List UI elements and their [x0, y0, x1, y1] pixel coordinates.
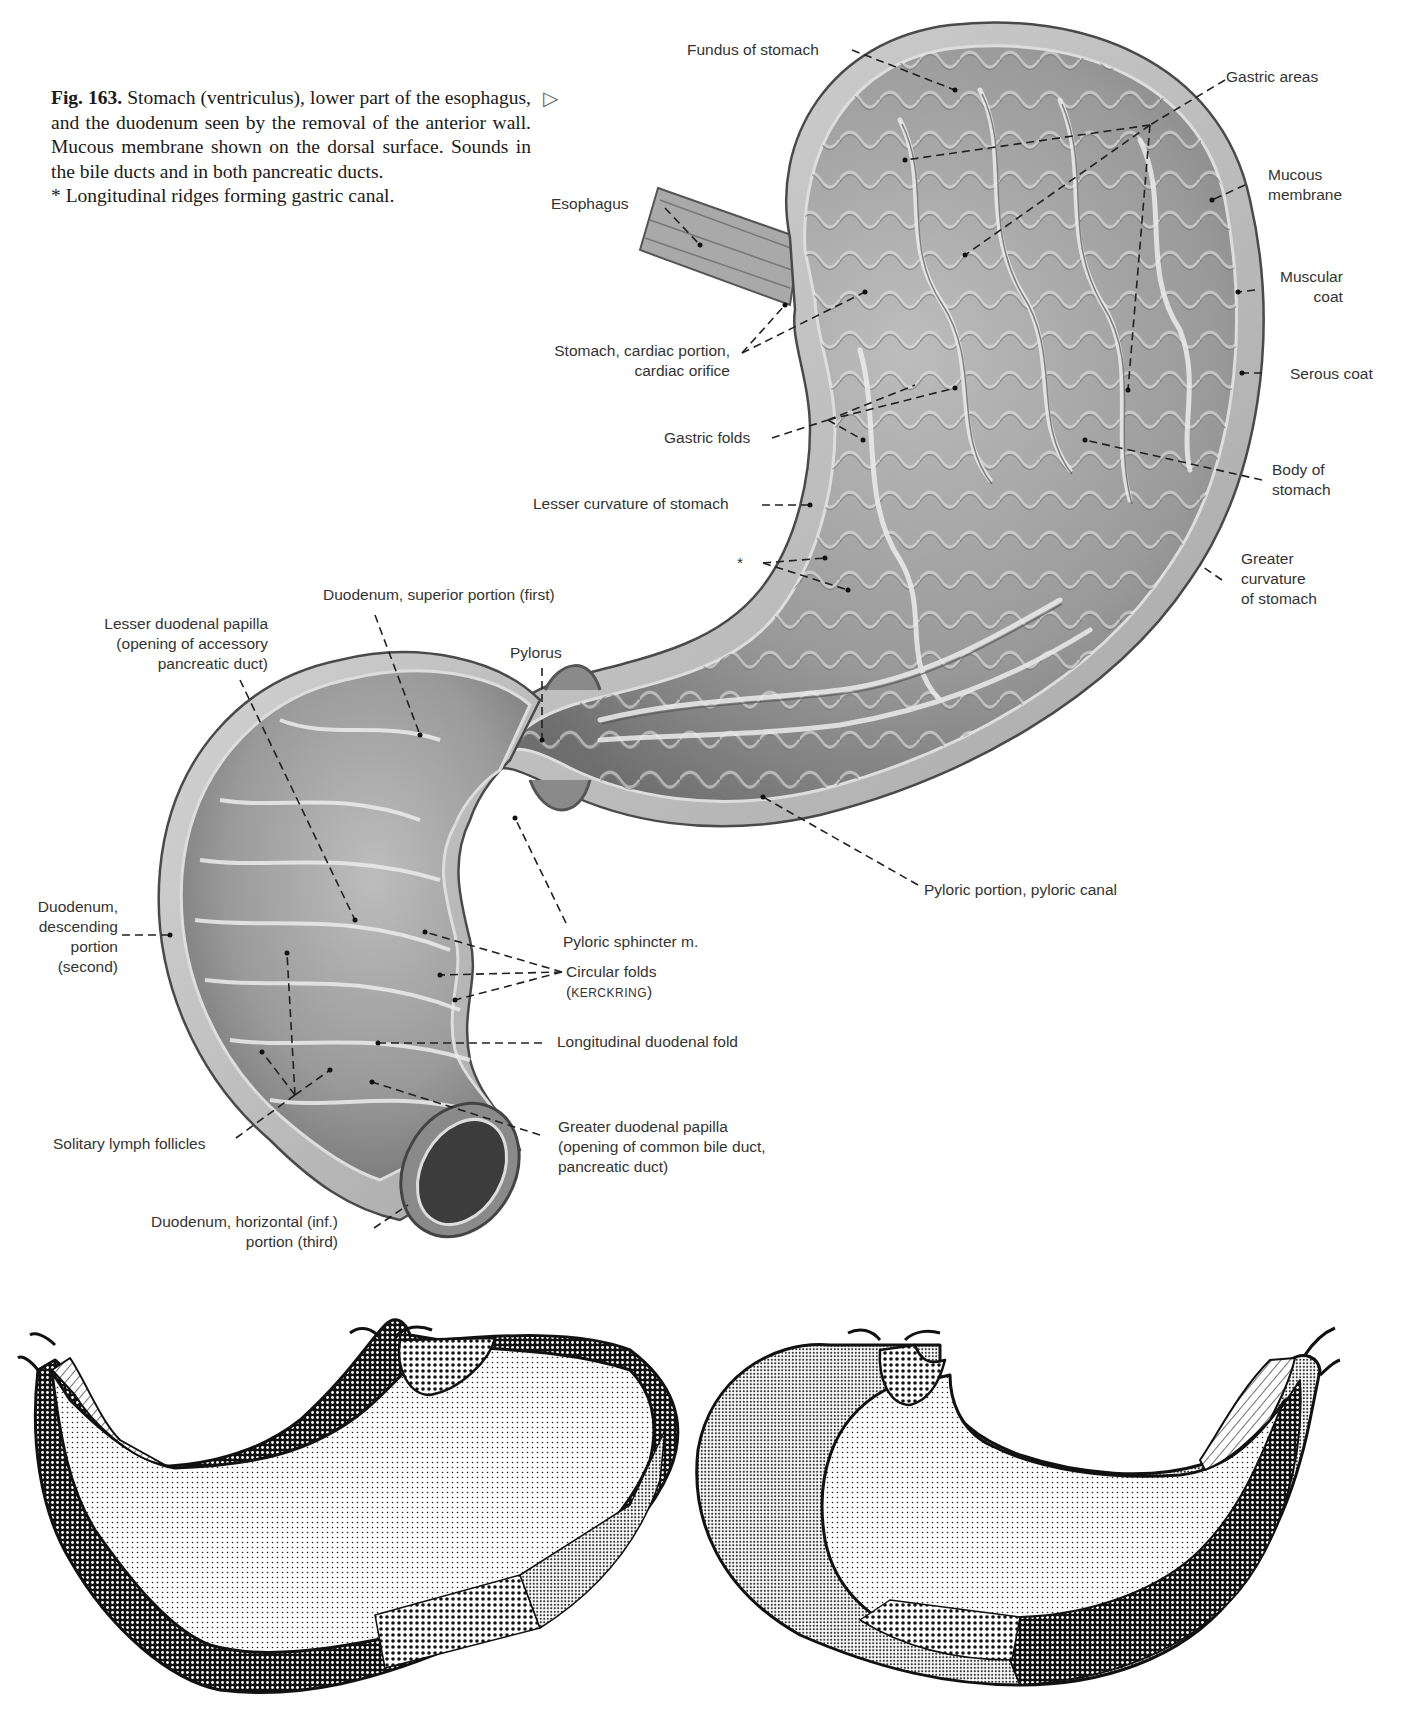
label-line: Lesser duodenal papilla — [60, 614, 268, 634]
label-line: cardiac orifice — [528, 361, 730, 381]
label-circular-folds: Circular folds (Kerckring) — [566, 962, 656, 1003]
schematic-right — [697, 1328, 1340, 1685]
label-line: (second) — [18, 957, 118, 977]
label-longitudinal-fold: Longitudinal duodenal fold — [557, 1032, 738, 1052]
label-line: membrane — [1268, 185, 1342, 205]
label-line: Duodenum, horizontal (inf.) — [120, 1212, 338, 1232]
label-line: (opening of common bile duct, — [558, 1137, 766, 1157]
label-esophagus: Esophagus — [551, 194, 629, 214]
esophagus-shape — [640, 188, 800, 305]
label-asterisk: * — [737, 553, 743, 573]
label-line: Greater — [1241, 549, 1317, 569]
label-pyloric-sphincter: Pyloric sphincter m. — [563, 932, 698, 952]
label-lesser-curvature: Lesser curvature of stomach — [533, 494, 729, 514]
label-line: portion (third) — [120, 1232, 338, 1252]
label-muscular-coat: Muscular coat — [1280, 267, 1343, 307]
label-line: Body of — [1272, 460, 1331, 480]
label-line: Stomach, cardiac portion, — [528, 341, 730, 361]
label-gastric-folds: Gastric folds — [664, 428, 750, 448]
label-cardiac-portion: Stomach, cardiac portion, cardiac orific… — [528, 341, 730, 381]
label-line: Duodenum, — [18, 897, 118, 917]
label-line: Circular folds — [566, 962, 656, 982]
label-line: pancreatic duct) — [60, 654, 268, 674]
stomach-illustration — [0, 0, 1413, 1721]
label-line: Greater duodenal papilla — [558, 1117, 766, 1137]
label-duodenum-descending: Duodenum, descending portion (second) — [18, 897, 118, 977]
label-solitary-follicles: Solitary lymph follicles — [53, 1134, 205, 1154]
label-line: Mucous — [1268, 165, 1342, 185]
paren: ) — [647, 983, 652, 1000]
label-pylorus: Pylorus — [510, 643, 562, 663]
label-fundus: Fundus of stomach — [687, 40, 819, 60]
label-duodenum-horizontal: Duodenum, horizontal (inf.) portion (thi… — [120, 1212, 338, 1252]
label-line: of stomach — [1241, 589, 1317, 609]
schematic-left — [18, 1320, 678, 1693]
label-line: portion — [18, 937, 118, 957]
label-lesser-duodenal-papilla: Lesser duodenal papilla (opening of acce… — [60, 614, 268, 674]
label-pyloric-portion: Pyloric portion, pyloric canal — [924, 880, 1117, 900]
label-body-of-stomach: Body of stomach — [1272, 460, 1331, 500]
label-line: curvature — [1241, 569, 1317, 589]
label-greater-curvature: Greater curvature of stomach — [1241, 549, 1317, 609]
label-duodenum-superior: Duodenum, superior portion (first) — [323, 585, 555, 605]
label-line: (opening of accessory — [60, 634, 268, 654]
label-line: coat — [1280, 287, 1343, 307]
label-greater-duodenal-papilla: Greater duodenal papilla (opening of com… — [558, 1117, 766, 1177]
label-line: stomach — [1272, 480, 1331, 500]
label-line: Muscular — [1280, 267, 1343, 287]
label-gastric-areas: Gastric areas — [1226, 67, 1318, 87]
label-serous-coat: Serous coat — [1290, 364, 1373, 384]
label-mucous-membrane: Mucous membrane — [1268, 165, 1342, 205]
label-line: descending — [18, 917, 118, 937]
label-line: pancreatic duct) — [558, 1157, 766, 1177]
eponym: Kerckring — [571, 986, 647, 1000]
label-line: (Kerckring) — [566, 982, 656, 1003]
